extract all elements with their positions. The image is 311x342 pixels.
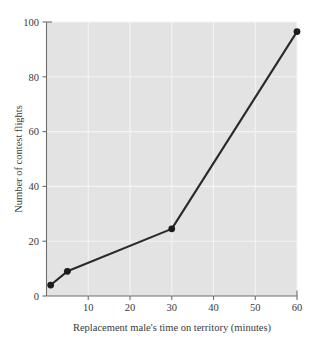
y-tick-label-0: 0 [34, 291, 39, 302]
x-tick-label-20: 20 [125, 302, 136, 313]
y-tick-label-20: 20 [29, 236, 40, 247]
x-tick-label-50: 50 [250, 302, 261, 313]
line-chart-svg: 100 80 60 40 20 0 10 20 30 40 50 60 Repl… [0, 0, 311, 342]
x-tick-label-10: 10 [83, 302, 94, 313]
x-axis-title: Replacement male's time on territory (mi… [73, 322, 272, 334]
y-tick-label-60: 60 [29, 126, 40, 137]
y-tick-label-40: 40 [29, 181, 40, 192]
data-point [47, 282, 54, 289]
data-point [294, 28, 301, 35]
x-tick-label-30: 30 [167, 302, 178, 313]
x-tick-label-60: 60 [292, 302, 303, 313]
chart-figure: 100 80 60 40 20 0 10 20 30 40 50 60 Repl… [0, 0, 311, 342]
y-tick-label-100: 100 [23, 17, 39, 28]
data-point [64, 268, 71, 275]
x-tick-label-40: 40 [208, 302, 219, 313]
data-point [168, 225, 175, 232]
y-tick-label-80: 80 [29, 72, 40, 83]
y-axis-title: Number of contest flights [13, 105, 24, 213]
